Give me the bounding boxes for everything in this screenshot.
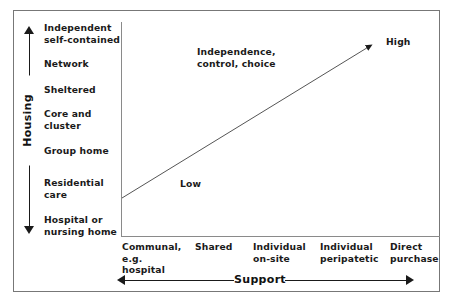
housing-category-line2: nursing home: [44, 226, 120, 238]
housing-category-independent-self-contained: Independent self-contained: [44, 22, 120, 45]
support-category-line2: purchase: [390, 253, 446, 265]
housing-category-line1: Independent: [44, 22, 120, 34]
housing-category-line1: Hospital or: [44, 214, 120, 226]
housing-category-hospital-or-nursing-home: Hospital or nursing home: [44, 214, 120, 237]
housing-category-residential-care: Residential care: [44, 177, 120, 200]
housing-category-line1: Network: [44, 58, 120, 70]
housing-category-sheltered: Sheltered: [44, 84, 120, 96]
plot-horizontal-axis: [121, 236, 440, 237]
support-arrow-right-icon: [406, 275, 414, 285]
support-category-line2: e.g.: [122, 253, 192, 265]
support-category-direct-purchase: Direct purchase: [390, 241, 446, 264]
support-category-line1: Individual: [320, 241, 388, 253]
housing-category-line1: Residential: [44, 177, 120, 189]
support-category-communal: Communal, e.g. hospital: [122, 241, 192, 276]
housing-category-line2: self-contained: [44, 34, 120, 46]
support-category-line2: on-site: [253, 253, 315, 265]
support-axis-arrow-line-right: [285, 280, 407, 281]
support-category-line1: Shared: [195, 241, 250, 253]
support-category-line1: Individual: [253, 241, 315, 253]
housing-category-line1: Core and: [44, 108, 120, 120]
support-category-individual-on-site: Individual on-site: [253, 241, 315, 264]
housing-category-group-home: Group home: [44, 145, 120, 157]
annotation-independence-control-choice: Independence, control, choice: [197, 46, 317, 69]
housing-category-line2: care: [44, 189, 120, 201]
annotation-high: High: [386, 36, 411, 48]
diagram-canvas: Housing Independent self-contained Netwo…: [0, 0, 451, 308]
annotation-low: Low: [180, 178, 201, 190]
support-category-line1: Direct: [390, 241, 446, 253]
housing-category-line1: Group home: [44, 145, 120, 157]
housing-arrow-down-icon: [24, 226, 34, 234]
housing-category-core-and-cluster: Core and cluster: [44, 108, 120, 131]
support-category-shared: Shared: [195, 241, 250, 253]
housing-category-line1: Sheltered: [44, 84, 120, 96]
annotation-line1: Independence,: [197, 46, 317, 58]
support-category-line3: hospital: [122, 264, 192, 276]
support-category-line2: peripatetic: [320, 253, 388, 265]
annotation-line2: control, choice: [197, 58, 317, 70]
support-arrow-left-icon: [117, 275, 125, 285]
x-axis-label: Support: [232, 273, 288, 286]
plot-vertical-axis: [121, 22, 122, 237]
housing-category-line2: cluster: [44, 120, 120, 132]
support-category-individual-peripatetic: Individual peripatetic: [320, 241, 388, 264]
support-category-line1: Communal,: [122, 241, 192, 253]
support-axis-arrow-line-left: [125, 280, 234, 281]
housing-arrow-up-icon: [24, 26, 34, 34]
y-axis-label: Housing: [19, 76, 36, 166]
housing-category-network: Network: [44, 58, 120, 70]
